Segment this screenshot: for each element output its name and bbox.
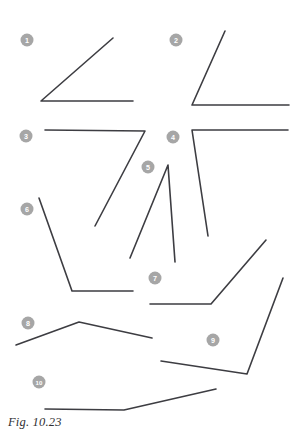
angle-shape-6 [39,198,133,291]
angle-marker-label-1: 1 [25,36,29,45]
angles-diagram: 12345678910 [0,0,299,438]
angle-shape-7 [150,240,266,304]
figure-caption: Fig. 10.23 [8,415,62,430]
angle-markers-group: 12345678910 [20,34,220,389]
angle-marker-8: 8 [22,317,35,330]
angle-marker-5: 5 [142,161,155,174]
angle-marker-label-3: 3 [24,132,28,141]
angle-shape-5 [130,165,175,262]
angle-marker-label-7: 7 [153,274,157,283]
angle-marker-10: 10 [33,376,46,389]
angle-marker-2: 2 [170,34,183,47]
angle-marker-4: 4 [167,131,180,144]
angle-marker-6: 6 [21,203,34,216]
figure-container: 12345678910 Fig. 10.23 [0,0,299,438]
angle-shape-4 [192,130,288,236]
angle-marker-9: 9 [207,334,220,347]
angle-marker-label-4: 4 [171,133,175,142]
angle-marker-label-8: 8 [26,319,30,328]
angle-shape-3 [45,130,145,226]
angle-shape-10 [45,389,216,410]
angle-marker-label-5: 5 [146,163,150,172]
angle-marker-label-10: 10 [36,379,43,386]
angle-marker-7: 7 [149,272,162,285]
angle-marker-label-9: 9 [211,336,215,345]
angle-marker-label-2: 2 [174,36,178,45]
angle-shape-1 [41,38,133,101]
angle-marker-3: 3 [20,130,33,143]
angle-marker-label-6: 6 [25,205,29,214]
angle-marker-1: 1 [21,34,34,47]
angle-shape-2 [192,31,289,105]
angle-shapes-group [16,31,289,410]
angle-shape-8 [16,322,152,345]
